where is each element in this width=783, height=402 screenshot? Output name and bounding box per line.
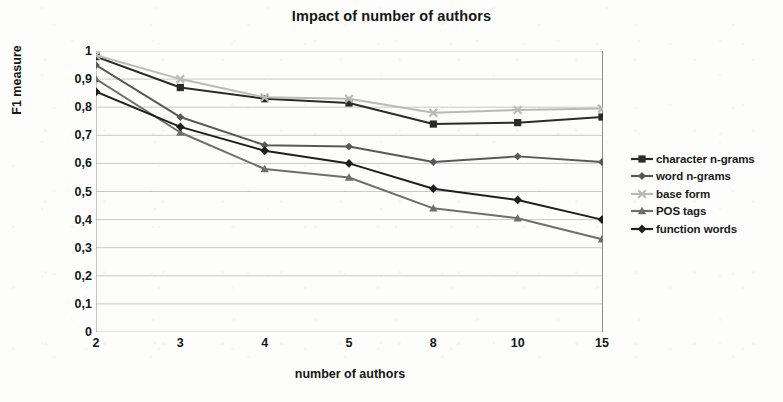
x-tick-label: 3 bbox=[177, 336, 184, 350]
y-tick-label: 1 bbox=[48, 44, 92, 58]
data-point-marker bbox=[598, 113, 603, 120]
chart-legend: character n-gramsword n-gramsbase formPO… bbox=[631, 150, 781, 238]
x-tick-label: 15 bbox=[595, 336, 609, 350]
legend-marker-icon bbox=[631, 169, 653, 183]
y-tick-label: 0,1 bbox=[48, 297, 92, 311]
legend-item-character-n-grams[interactable]: character n-grams bbox=[631, 150, 781, 168]
legend-item-base-form[interactable]: base form bbox=[631, 185, 781, 203]
data-point-marker bbox=[345, 159, 354, 168]
chart-title: Impact of number of authors bbox=[0, 8, 783, 24]
data-point-marker bbox=[514, 119, 521, 126]
y-tick-label: 0,8 bbox=[48, 100, 92, 114]
legend-label: function words bbox=[656, 223, 737, 235]
legend-label: character n-grams bbox=[656, 153, 755, 165]
x-tick-label: 4 bbox=[261, 336, 268, 350]
x-axis-tick-labels: 234581015 bbox=[96, 336, 603, 358]
y-tick-label: 0,2 bbox=[48, 269, 92, 283]
plot-svg bbox=[96, 51, 603, 332]
legend-label: word n-grams bbox=[656, 170, 731, 182]
legend-label: base form bbox=[656, 188, 710, 200]
x-axis-title: number of authors bbox=[95, 367, 605, 381]
y-tick-label: 0,7 bbox=[48, 128, 92, 142]
legend-item-word-n-grams[interactable]: word n-grams bbox=[631, 168, 781, 186]
legend-item-pos-tags[interactable]: POS tags bbox=[631, 203, 781, 221]
legend-marker-icon bbox=[631, 222, 653, 236]
y-tick-label: 0,9 bbox=[48, 72, 92, 86]
data-point-marker bbox=[598, 215, 603, 224]
legend-label: POS tags bbox=[656, 205, 706, 217]
chart-container: Impact of number of authors F1 measure 0… bbox=[0, 0, 783, 402]
data-point-marker bbox=[430, 120, 437, 127]
y-tick-label: 0,5 bbox=[48, 185, 92, 199]
y-tick-label: 0,4 bbox=[48, 213, 92, 227]
y-tick-label: 0,3 bbox=[48, 241, 92, 255]
plot-area bbox=[96, 51, 603, 332]
series-line-character-n-grams bbox=[96, 57, 602, 124]
data-point-marker bbox=[638, 155, 645, 162]
data-point-marker bbox=[345, 143, 353, 151]
legend-marker-icon bbox=[631, 187, 653, 201]
x-tick-label: 2 bbox=[93, 336, 100, 350]
y-tick-label: 0 bbox=[48, 325, 92, 339]
x-tick-label: 8 bbox=[430, 336, 437, 350]
legend-marker-icon bbox=[631, 152, 653, 166]
data-point-marker bbox=[429, 158, 437, 166]
data-point-marker bbox=[96, 87, 100, 96]
x-tick-label: 5 bbox=[346, 336, 353, 350]
x-tick-label: 10 bbox=[511, 336, 525, 350]
legend-item-function-words[interactable]: function words bbox=[631, 220, 781, 238]
data-point-marker bbox=[638, 224, 647, 233]
data-point-marker bbox=[260, 146, 269, 155]
data-point-marker bbox=[598, 158, 603, 166]
data-point-marker bbox=[177, 84, 184, 91]
data-point-marker bbox=[513, 196, 522, 205]
data-point-marker bbox=[638, 172, 646, 180]
data-point-marker bbox=[514, 152, 522, 160]
y-tick-label: 0,6 bbox=[48, 156, 92, 170]
legend-marker-icon bbox=[631, 204, 653, 218]
y-axis-title: F1 measure bbox=[10, 0, 24, 160]
y-axis-tick-labels: 00,10,20,30,40,50,60,70,80,91 bbox=[40, 51, 92, 332]
